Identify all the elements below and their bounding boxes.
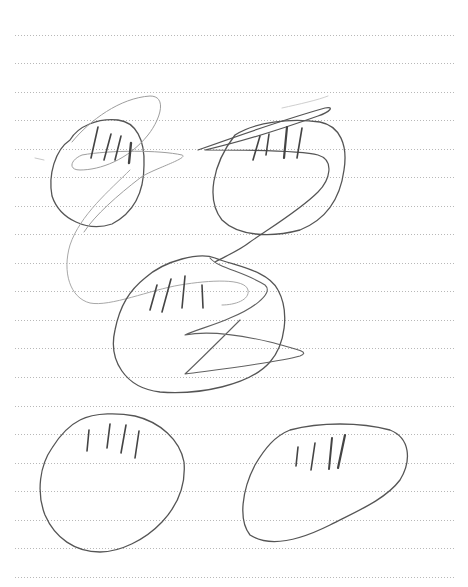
- middle-blob: [113, 256, 303, 392]
- tally-mark: [104, 134, 111, 160]
- faint-stroke: [282, 96, 328, 108]
- scribble-zigzag: [185, 258, 304, 374]
- tally-mark: [115, 136, 121, 160]
- pencil-sketch: [0, 0, 468, 587]
- tally-marks: [87, 424, 139, 458]
- tally-mark: [150, 285, 157, 310]
- bottom-right-blob: [243, 424, 408, 542]
- tally-mark: [162, 279, 171, 312]
- tally-marks: [253, 127, 302, 160]
- tally-mark: [296, 447, 298, 466]
- tally-mark: [121, 425, 126, 453]
- blob-outline: [40, 414, 184, 552]
- tally-mark: [129, 143, 131, 163]
- blob-outline: [51, 120, 144, 227]
- tally-mark: [311, 443, 315, 470]
- tally-mark: [338, 435, 345, 468]
- tally-mark: [135, 431, 139, 458]
- top-left-blob: [35, 96, 183, 232]
- scribble-tail: [35, 158, 44, 160]
- tally-marks: [150, 276, 203, 312]
- bottom-left-blob: [40, 414, 184, 552]
- lined-paper: [0, 0, 468, 587]
- tally-marks: [296, 435, 345, 470]
- scribble-wedge: [198, 108, 330, 262]
- tally-mark: [329, 438, 332, 469]
- tally-mark: [182, 276, 185, 308]
- tally-mark: [266, 134, 269, 155]
- top-right-blob: [198, 108, 345, 262]
- scribble-loop: [72, 96, 183, 232]
- tally-marks: [91, 127, 131, 163]
- blob-outline: [243, 424, 408, 542]
- tally-mark: [284, 127, 287, 158]
- tally-mark: [253, 136, 260, 160]
- tally-mark: [297, 128, 302, 158]
- tally-mark: [202, 285, 203, 308]
- tally-mark: [87, 430, 89, 451]
- tally-mark: [107, 424, 110, 448]
